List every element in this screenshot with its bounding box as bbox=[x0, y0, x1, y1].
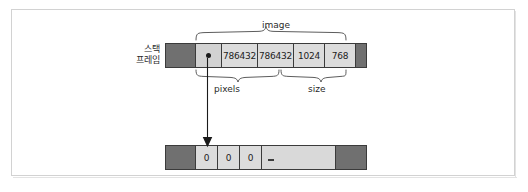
brace-label-pixels: pixels bbox=[214, 84, 240, 94]
heap-cell-right-pad bbox=[336, 146, 366, 169]
stack-frame-row: 786432 786432 1024 768 bbox=[165, 43, 367, 68]
stack-frame-label-line1: 스택 bbox=[112, 44, 160, 55]
ellipsis-dash-icon bbox=[268, 159, 274, 161]
heap-cell-remaining bbox=[262, 146, 336, 169]
stack-cell-right-pad bbox=[356, 44, 366, 67]
stack-cell-left-pad bbox=[166, 44, 196, 67]
diagram-canvas: 스택 프레임 786432 786432 1024 768 0 0 0 imag… bbox=[0, 0, 528, 192]
stack-cell-pixels-0: 786432 bbox=[222, 44, 258, 67]
pointer-dot-icon bbox=[206, 53, 211, 58]
heap-cell-left-pad bbox=[166, 146, 196, 169]
heap-cell-2: 0 bbox=[240, 146, 262, 169]
figure-shadow-right bbox=[515, 11, 516, 177]
stack-cell-pointer bbox=[196, 44, 222, 67]
heap-cell-1: 0 bbox=[218, 146, 240, 169]
brace-label-size: size bbox=[308, 84, 325, 94]
stack-frame-label-line2: 프레임 bbox=[112, 55, 160, 66]
brace-label-image: image bbox=[262, 20, 290, 30]
stack-frame-label: 스택 프레임 bbox=[112, 44, 160, 66]
stack-cell-size-width: 1024 bbox=[294, 44, 325, 67]
stack-cell-size-height: 768 bbox=[325, 44, 356, 67]
heap-cell-0: 0 bbox=[196, 146, 218, 169]
stack-cell-pixels-1: 786432 bbox=[258, 44, 294, 67]
figure-shadow-bottom bbox=[13, 177, 517, 178]
heap-array-row: 0 0 0 bbox=[165, 145, 367, 170]
